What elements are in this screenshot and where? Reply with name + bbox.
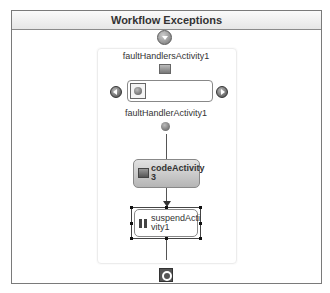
resize-handle[interactable] bbox=[199, 206, 202, 209]
workflow-start-icon bbox=[157, 30, 172, 45]
fault-handlers-icon bbox=[159, 64, 171, 74]
fault-handler-thumbnail[interactable] bbox=[130, 83, 146, 99]
resize-handle[interactable] bbox=[130, 206, 133, 209]
resize-handle[interactable] bbox=[165, 206, 168, 209]
code-activity-box[interactable]: codeActivity 3 bbox=[133, 159, 200, 188]
connector-line bbox=[166, 188, 167, 202]
workflow-end-icon bbox=[159, 268, 173, 282]
designer-title: Workflow Exceptions bbox=[12, 11, 321, 30]
resize-handle[interactable] bbox=[130, 237, 133, 240]
code-activity-label: codeActivity 3 bbox=[151, 164, 199, 182]
pause-icon bbox=[139, 219, 147, 228]
resize-handle[interactable] bbox=[130, 222, 133, 225]
connector-line bbox=[166, 134, 167, 159]
scroll-right-arrow-icon[interactable] bbox=[216, 86, 228, 98]
scroll-left-arrow-icon[interactable] bbox=[110, 86, 122, 98]
fault-handler-label: faultHandlerActivity1 bbox=[97, 108, 235, 118]
code-activity-icon bbox=[138, 168, 149, 178]
resize-handle[interactable] bbox=[199, 237, 202, 240]
fault-handler-strip[interactable] bbox=[127, 80, 213, 102]
fault-handler-icon bbox=[161, 122, 170, 131]
suspend-activity-box[interactable]: suspendActi vity1 bbox=[134, 209, 198, 237]
fault-handlers-label: faultHandlersActivity1 bbox=[97, 51, 235, 61]
resize-handle[interactable] bbox=[199, 222, 202, 225]
connector-line bbox=[166, 240, 167, 260]
suspend-activity-label: suspendActi vity1 bbox=[151, 214, 197, 232]
